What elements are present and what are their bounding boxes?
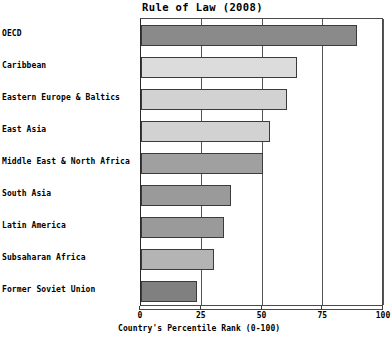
plot-area (140, 18, 383, 306)
chart-container: Rule of Law (2008) OECDCaribbeanEastern … (0, 0, 392, 340)
gridline-100 (383, 19, 384, 305)
category-label: Eastern Europe & Baltics (2, 93, 135, 103)
bar-row (141, 249, 382, 270)
bar[interactable] (141, 153, 263, 174)
x-tick-mark (139, 306, 140, 310)
category-label: Subsaharan Africa (2, 253, 135, 263)
bar[interactable] (141, 57, 297, 78)
x-tick-mark (382, 306, 383, 310)
bar-row (141, 25, 382, 46)
bar[interactable] (141, 25, 357, 46)
category-label: Caribbean (2, 61, 135, 71)
x-axis-title: Country's Percentile Rank (0-100) (118, 324, 280, 333)
x-tick-label: 25 (196, 311, 206, 320)
category-label: Middle East & North Africa (2, 157, 135, 167)
x-tick-label: 0 (138, 311, 143, 320)
bar-row (141, 57, 382, 78)
category-label: OECD (2, 29, 135, 39)
bar-row (141, 153, 382, 174)
bar-row (141, 121, 382, 142)
bar-row (141, 89, 382, 110)
category-label: Former Soviet Union (2, 285, 135, 295)
category-label: South Asia (2, 189, 135, 199)
bar[interactable] (141, 185, 231, 206)
bar-row (141, 185, 382, 206)
x-tick-label: 75 (317, 311, 327, 320)
bar[interactable] (141, 89, 287, 110)
bar[interactable] (141, 281, 197, 302)
category-label: Latin America (2, 221, 135, 231)
bar[interactable] (141, 121, 270, 142)
x-axis-line (140, 309, 383, 310)
bar-row (141, 281, 382, 302)
chart-title: Rule of Law (2008) (142, 1, 263, 13)
category-axis-labels: OECDCaribbeanEastern Europe & BalticsEas… (0, 18, 138, 306)
bars-layer (141, 19, 382, 305)
x-tick-mark (200, 306, 201, 310)
x-tick-mark (321, 306, 322, 310)
bar[interactable] (141, 249, 214, 270)
bar[interactable] (141, 217, 224, 238)
category-label: East Asia (2, 125, 135, 135)
x-tick-label: 50 (257, 311, 267, 320)
x-tick-mark (261, 306, 262, 310)
x-tick-label: 100 (376, 311, 390, 320)
bar-row (141, 217, 382, 238)
